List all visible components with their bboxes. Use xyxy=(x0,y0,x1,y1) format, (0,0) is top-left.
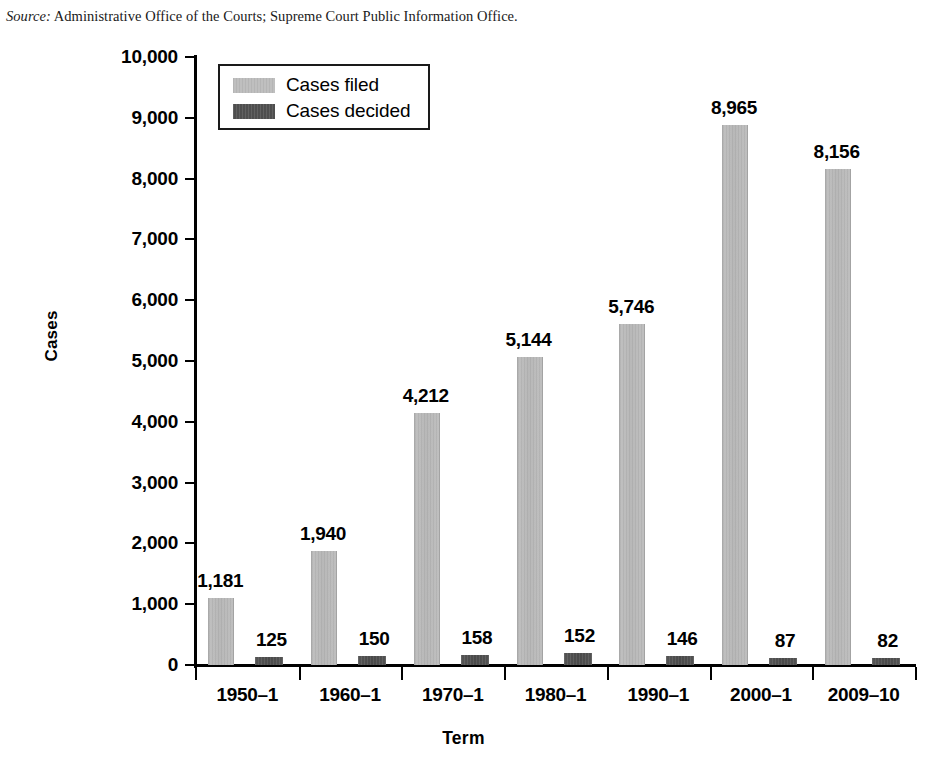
x-axis-title: Term xyxy=(0,728,927,749)
chart-legend: Cases filed Cases decided xyxy=(218,64,430,130)
y-axis-tick-label-text: 5,000 xyxy=(86,351,178,370)
y-axis-tick-label: 6,000 xyxy=(78,290,178,310)
source-note: Source: Administrative Office of the Cou… xyxy=(6,8,518,25)
y-axis-tick xyxy=(185,299,196,301)
y-axis-tick-label: 4,000 xyxy=(78,412,178,432)
x-axis-category-label: 2009–10 xyxy=(804,684,924,706)
bar-value-cases-filed: 1,940 xyxy=(253,523,393,545)
legend-swatch-cases-decided xyxy=(233,104,275,119)
y-axis-tick-label: 2,000 xyxy=(78,533,178,553)
plot-area: 1,1811251,9401504,2121585,1441525,746146… xyxy=(196,57,915,665)
x-axis-tick xyxy=(504,667,506,680)
source-label: Source: xyxy=(6,8,51,24)
y-axis-tick-label-text: 10,000 xyxy=(86,47,178,66)
y-axis-tick-label-text: 8,000 xyxy=(86,169,178,188)
y-axis-tick-label: 9,000 xyxy=(78,108,178,128)
bar-chart-figure: Cases 01,0002,0003,0004,0005,0006,0007,0… xyxy=(0,36,927,769)
y-axis-tick-label: 7,000 xyxy=(78,229,178,249)
x-axis-tick xyxy=(401,667,403,680)
y-axis-tick xyxy=(185,56,196,58)
y-axis-title: Cases xyxy=(42,276,62,396)
y-axis-tick-label-text: 3,000 xyxy=(86,473,178,492)
bar-cases-decided[interactable] xyxy=(255,657,283,665)
legend-swatch-cases-filed xyxy=(233,78,275,93)
bar-cases-decided[interactable] xyxy=(358,656,386,665)
x-axis-tick xyxy=(195,667,197,680)
legend-label-cases-filed: Cases filed xyxy=(286,74,379,96)
y-axis-tick-label: 10,000 xyxy=(78,47,178,67)
bar-cases-decided[interactable] xyxy=(769,658,797,665)
x-axis-tick xyxy=(299,667,301,680)
bar-cases-decided[interactable] xyxy=(872,658,900,665)
x-axis-tick xyxy=(915,667,917,680)
bar-cases-decided[interactable] xyxy=(666,656,694,665)
y-axis-tick-label-text: 2,000 xyxy=(86,533,178,552)
y-axis-tick xyxy=(185,178,196,180)
bar-value-cases-filed: 4,212 xyxy=(356,385,496,407)
y-axis-tick-label-text: 9,000 xyxy=(86,108,178,127)
x-axis-tick xyxy=(812,667,814,680)
bar-cases-decided[interactable] xyxy=(564,653,592,665)
y-axis-tick-label-text: 6,000 xyxy=(86,290,178,309)
bar-cases-filed[interactable] xyxy=(517,357,543,665)
bar-cases-filed[interactable] xyxy=(619,324,645,665)
y-axis-tick-label-text: 4,000 xyxy=(86,412,178,431)
y-axis-tick-label: 1,000 xyxy=(78,594,178,614)
y-axis-tick xyxy=(185,421,196,423)
x-axis-tick xyxy=(607,667,609,680)
bar-cases-filed[interactable] xyxy=(825,169,851,665)
y-axis-tick xyxy=(185,482,196,484)
y-axis-tick-label: 0 xyxy=(78,655,178,675)
y-axis-tick xyxy=(185,238,196,240)
bar-value-cases-filed: 1,181 xyxy=(150,570,290,592)
y-axis-tick xyxy=(185,542,196,544)
y-axis-tick xyxy=(185,360,196,362)
bar-value-cases-decided: 82 xyxy=(818,630,927,652)
bar-cases-decided[interactable] xyxy=(461,655,489,665)
y-axis-tick-label-text: 7,000 xyxy=(86,229,178,248)
bar-cases-filed[interactable] xyxy=(722,125,748,665)
legend-label-cases-decided: Cases decided xyxy=(286,100,410,122)
x-axis-tick xyxy=(710,667,712,680)
source-text: Administrative Office of the Courts; Sup… xyxy=(51,8,518,24)
bar-value-cases-filed: 5,746 xyxy=(561,296,701,318)
y-axis-tick xyxy=(185,603,196,605)
y-axis-tick-label: 5,000 xyxy=(78,351,178,371)
y-axis-tick-label: 3,000 xyxy=(78,473,178,493)
y-axis-tick xyxy=(185,664,196,666)
bar-value-cases-filed: 8,156 xyxy=(767,141,907,163)
legend-item-cases-filed[interactable]: Cases filed xyxy=(233,72,379,98)
bar-value-cases-filed: 8,965 xyxy=(664,97,804,119)
bar-value-cases-filed: 5,144 xyxy=(459,329,599,351)
y-axis-tick-label-text: 0 xyxy=(86,655,178,674)
scan-top-artifact xyxy=(470,0,900,3)
y-axis-tick-label-text: 1,000 xyxy=(86,594,178,613)
y-axis-tick-label: 8,000 xyxy=(78,169,178,189)
y-axis-tick xyxy=(185,117,196,119)
legend-item-cases-decided[interactable]: Cases decided xyxy=(233,98,410,124)
